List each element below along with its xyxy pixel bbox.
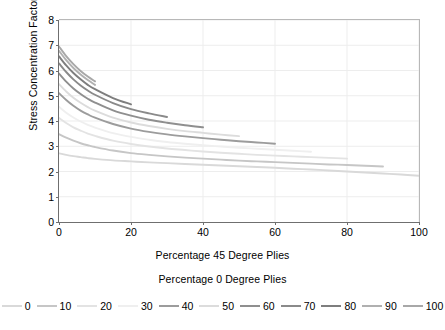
y-tick-mark bbox=[56, 121, 59, 122]
data-series-group bbox=[59, 47, 419, 176]
legend-swatch-60 bbox=[240, 305, 260, 307]
y-tick-label: 7 bbox=[48, 40, 54, 51]
y-tick-mark bbox=[56, 20, 59, 21]
legend-item-0[interactable]: 0 bbox=[0, 301, 34, 312]
legend-item-20[interactable]: 20 bbox=[74, 301, 115, 312]
legend-item-100[interactable]: 100 bbox=[400, 301, 445, 312]
y-tick-label: 4 bbox=[48, 116, 54, 127]
x-tick-label: 40 bbox=[197, 227, 209, 238]
legend-item-10[interactable]: 10 bbox=[34, 301, 75, 312]
legend-item-40[interactable]: 40 bbox=[156, 301, 197, 312]
legend-label-100: 100 bbox=[426, 301, 444, 312]
y-tick-mark bbox=[56, 172, 59, 173]
x-tick-mark bbox=[275, 222, 276, 225]
y-tick-mark bbox=[56, 96, 59, 97]
y-tick-mark bbox=[56, 146, 59, 147]
legend-item-30[interactable]: 30 bbox=[115, 301, 156, 312]
legend-label-0: 0 bbox=[25, 301, 31, 312]
legend-label-40: 40 bbox=[182, 301, 194, 312]
y-tick-mark bbox=[56, 71, 59, 72]
plot-area: 012345678 020406080100 bbox=[58, 20, 419, 223]
x-tick-label: 20 bbox=[125, 227, 137, 238]
legend-swatch-70 bbox=[281, 305, 301, 307]
x-tick-mark bbox=[347, 222, 348, 225]
legend-label-90: 90 bbox=[385, 301, 397, 312]
x-tick-label: 0 bbox=[56, 227, 62, 238]
legend-swatch-100 bbox=[403, 305, 423, 307]
y-tick-label: 2 bbox=[48, 166, 54, 177]
chart-figure: Stress Concentration Factor 012345678 02… bbox=[0, 0, 445, 330]
y-tick-mark bbox=[56, 197, 59, 198]
legend-item-90[interactable]: 90 bbox=[359, 301, 400, 312]
series-line-0 bbox=[59, 153, 419, 175]
legend-swatch-10 bbox=[37, 305, 57, 307]
x-tick-label: 100 bbox=[410, 227, 428, 238]
legend-swatch-90 bbox=[362, 305, 382, 307]
legend-label-10: 10 bbox=[60, 301, 72, 312]
series-line-50 bbox=[59, 84, 239, 136]
legend-label-20: 20 bbox=[100, 301, 112, 312]
legend-swatch-20 bbox=[77, 305, 97, 307]
legend-title: Percentage 0 Degree Plies bbox=[0, 273, 445, 285]
grid-lines bbox=[59, 20, 419, 222]
legend-label-50: 50 bbox=[222, 301, 234, 312]
legend-swatch-50 bbox=[199, 305, 219, 307]
legend-label-60: 60 bbox=[263, 301, 275, 312]
legend-swatch-0 bbox=[2, 305, 22, 307]
legend-item-60[interactable]: 60 bbox=[237, 301, 278, 312]
x-tick-label: 80 bbox=[341, 227, 353, 238]
x-tick-mark bbox=[419, 222, 420, 225]
legend-swatch-80 bbox=[321, 305, 341, 307]
chart-legend: 0102030405060708090100 bbox=[0, 301, 445, 312]
x-tick-label: 60 bbox=[269, 227, 281, 238]
series-line-30 bbox=[59, 107, 311, 152]
y-tick-label: 1 bbox=[48, 192, 54, 203]
series-canvas bbox=[59, 20, 419, 222]
x-axis-title: Percentage 45 Degree Plies bbox=[0, 249, 445, 261]
legend-item-70[interactable]: 70 bbox=[278, 301, 319, 312]
legend-item-50[interactable]: 50 bbox=[196, 301, 237, 312]
y-tick-label: 5 bbox=[48, 91, 54, 102]
x-tick-mark bbox=[131, 222, 132, 225]
legend-label-70: 70 bbox=[304, 301, 316, 312]
legend-swatch-40 bbox=[159, 305, 179, 307]
y-tick-label: 0 bbox=[48, 217, 54, 228]
x-tick-mark bbox=[203, 222, 204, 225]
legend-item-80[interactable]: 80 bbox=[318, 301, 359, 312]
y-tick-label: 3 bbox=[48, 141, 54, 152]
legend-label-30: 30 bbox=[141, 301, 153, 312]
plot-frame-right bbox=[419, 19, 420, 222]
y-axis-title: Stress Concentration Factor bbox=[27, 0, 39, 159]
legend-label-80: 80 bbox=[344, 301, 356, 312]
x-tick-mark bbox=[59, 222, 60, 225]
legend-swatch-30 bbox=[118, 305, 138, 307]
y-tick-mark bbox=[56, 45, 59, 46]
y-tick-label: 8 bbox=[48, 15, 54, 26]
y-tick-label: 6 bbox=[48, 65, 54, 76]
